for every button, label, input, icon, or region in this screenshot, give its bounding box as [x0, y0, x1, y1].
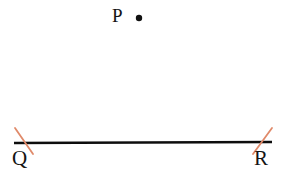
label-endpoint-q: Q [12, 148, 27, 169]
label-point-p: P [112, 6, 123, 25]
segment-qr [14, 142, 272, 143]
label-endpoint-r: R [254, 148, 268, 169]
point-p-dot-icon [136, 15, 142, 21]
geometry-diagram-canvas: P Q R [0, 0, 300, 183]
